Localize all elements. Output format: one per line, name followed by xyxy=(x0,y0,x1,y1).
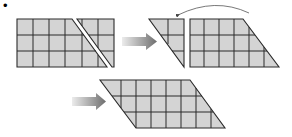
step-1-cut-rectangle xyxy=(17,19,114,67)
diagram-canvas: • xyxy=(0,0,292,137)
step-2-moved-pieces xyxy=(149,5,279,67)
step-3-parallelogram xyxy=(100,80,225,128)
move-arc-arrow xyxy=(178,5,249,15)
arrow-right-icon-2 xyxy=(72,93,106,110)
arrow-right-icon xyxy=(122,33,157,50)
remaining-trapezoid-piece xyxy=(190,19,279,67)
